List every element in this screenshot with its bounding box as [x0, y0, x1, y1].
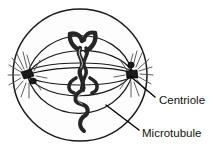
microtubule-label: Microtubule — [142, 127, 201, 139]
centriole-label: Centriole — [159, 94, 205, 106]
centriole-satellite-icon — [30, 78, 37, 84]
mitosis-diagram: Centriole Microtubule — [0, 0, 216, 150]
mitosis-illustration: Centriole Microtubule — [0, 0, 216, 150]
centriole-satellite-icon — [128, 62, 134, 68]
